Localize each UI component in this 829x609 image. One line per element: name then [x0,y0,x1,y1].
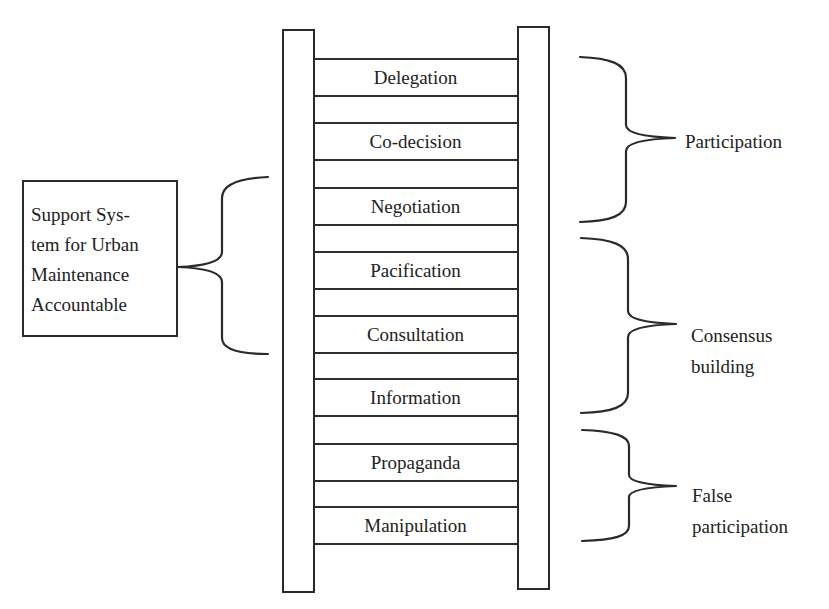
rung-co-decision: Co-decision [312,122,519,161]
rung-manipulation: Manipulation [312,506,519,545]
side-box-line: Support Sys- [31,200,176,230]
group-label-line: Consensus [691,320,772,351]
rung-information: Information [312,378,519,417]
group-label-consensus-building: Consensus building [691,320,772,382]
rung-delegation: Delegation [312,58,519,97]
ladder-of-participation-diagram: Support Sys- tem for Urban Maintenance A… [0,0,829,609]
participation-brace-icon [580,57,675,222]
group-label-line: Participation [685,126,782,157]
side-box-line: tem for Urban [31,230,176,260]
consensus-building-brace-icon [581,238,676,413]
rung-negotiation: Negotiation [312,187,519,226]
group-label-line: building [691,351,772,382]
group-label-participation: Participation [685,126,782,157]
false-participation-brace-icon [582,430,676,541]
rung-pacification: Pacification [312,251,519,290]
ladder-left-rail [282,29,315,593]
rung-consultation: Consultation [312,315,519,354]
support-system-box: Support Sys- tem for Urban Maintenance A… [22,180,178,337]
ladder-right-rail [517,26,550,590]
group-label-line: participation [692,511,788,542]
group-label-line: False [692,480,788,511]
rung-propaganda: Propaganda [312,443,519,482]
side-box-line: Accountable [31,290,176,320]
side-box-line: Maintenance [31,260,176,290]
group-label-false-participation: False participation [692,480,788,542]
left-brace-icon [178,177,268,354]
